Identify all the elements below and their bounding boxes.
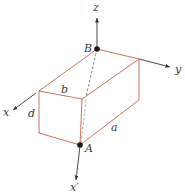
dim-a-label: a — [111, 121, 118, 134]
b-point-label: B — [83, 42, 92, 55]
a-point-label: A — [84, 142, 93, 155]
box-diagram: z y x x′ B A b d a — [0, 0, 185, 192]
point-a — [77, 142, 83, 148]
dim-b-label: b — [61, 83, 68, 96]
y-label: y — [174, 63, 182, 76]
x-label: x — [3, 106, 10, 119]
dim-d-label: d — [28, 107, 35, 120]
x-prime-label: x′ — [70, 181, 79, 192]
point-b — [94, 46, 100, 52]
y-axis — [139, 59, 170, 67]
z-label: z — [92, 1, 99, 14]
box — [39, 49, 139, 145]
x-prime-axis — [76, 146, 80, 180]
